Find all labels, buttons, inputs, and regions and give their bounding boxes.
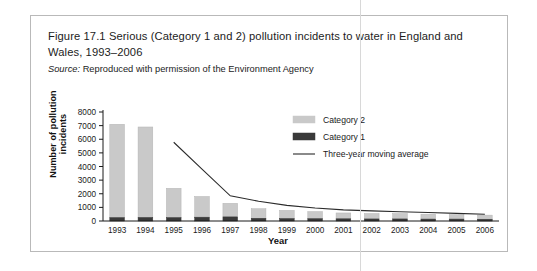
svg-text:2003: 2003 <box>391 226 410 235</box>
caption-line-1: Figure 17.1 Serious (Category 1 and 2) p… <box>48 28 488 44</box>
chart-svg: 010002000300040005000600070008000 199319… <box>31 76 509 252</box>
svg-text:1995: 1995 <box>165 226 184 235</box>
svg-text:1997: 1997 <box>221 226 240 235</box>
page-fold-line <box>360 0 361 271</box>
svg-text:1994: 1994 <box>136 226 155 235</box>
svg-text:7000: 7000 <box>78 122 97 131</box>
svg-text:8000: 8000 <box>78 108 97 117</box>
caption-line-2: Wales, 1993–2006 <box>48 44 488 60</box>
svg-text:2000: 2000 <box>306 226 325 235</box>
source-text: Reproduced with permission of the Enviro… <box>83 64 314 74</box>
svg-text:1996: 1996 <box>193 226 212 235</box>
figure-caption: Figure 17.1 Serious (Category 1 and 2) p… <box>48 28 488 76</box>
chart-plot-area: Number of pollution incidents Year 01000… <box>31 76 509 252</box>
svg-text:2000: 2000 <box>78 190 97 199</box>
y-axis-ticks: 010002000300040005000600070008000 <box>78 108 103 226</box>
svg-text:3000: 3000 <box>78 176 97 185</box>
svg-text:2002: 2002 <box>363 226 382 235</box>
svg-text:2001: 2001 <box>334 226 353 235</box>
svg-text:Three-year moving average: Three-year moving average <box>323 149 429 159</box>
svg-text:0: 0 <box>91 217 96 226</box>
svg-text:Category 2: Category 2 <box>323 115 365 125</box>
svg-text:Category 1: Category 1 <box>323 132 365 142</box>
svg-text:2004: 2004 <box>419 226 438 235</box>
svg-text:1998: 1998 <box>249 226 268 235</box>
svg-text:2005: 2005 <box>447 226 466 235</box>
svg-text:4000: 4000 <box>78 163 97 172</box>
svg-text:1000: 1000 <box>78 203 97 212</box>
x-axis-ticks: 1993199419951996199719981999200020012002… <box>108 226 494 235</box>
svg-text:2006: 2006 <box>476 226 495 235</box>
svg-text:6000: 6000 <box>78 135 97 144</box>
figure-panel: Figure 17.1 Serious (Category 1 and 2) p… <box>30 15 508 252</box>
svg-text:1993: 1993 <box>108 226 127 235</box>
svg-text:5000: 5000 <box>78 149 97 158</box>
svg-text:1999: 1999 <box>278 226 297 235</box>
figure-source: Source: Reproduced with permission of th… <box>48 62 488 76</box>
